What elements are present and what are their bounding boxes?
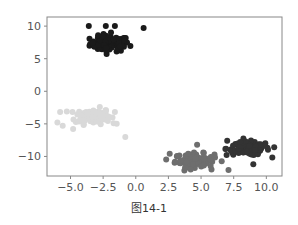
data-point <box>190 161 196 167</box>
data-point <box>188 166 194 172</box>
data-point <box>172 159 178 165</box>
data-point <box>54 120 60 126</box>
points-layer <box>54 23 277 173</box>
series-cluster-2 <box>54 104 128 140</box>
data-point <box>98 121 104 127</box>
data-point <box>97 104 103 110</box>
data-point <box>219 158 225 164</box>
x-tick-label: −2.5 <box>90 181 117 194</box>
data-point <box>70 126 76 132</box>
data-point <box>81 122 87 128</box>
x-tick-label: 10.0 <box>254 181 279 194</box>
data-point <box>163 157 169 163</box>
data-point <box>201 150 207 156</box>
series-cluster-1 <box>86 23 147 57</box>
figure-caption: 图14-1 <box>131 202 167 215</box>
series-cluster-3 <box>163 142 231 174</box>
data-point <box>103 107 109 113</box>
data-point <box>64 109 70 115</box>
data-point <box>226 167 232 173</box>
data-point <box>105 118 111 124</box>
data-point <box>262 143 268 149</box>
x-tick-label: −5.0 <box>57 181 84 194</box>
data-point <box>111 120 117 126</box>
data-point <box>244 149 250 155</box>
data-point <box>177 158 183 164</box>
data-point <box>167 151 173 157</box>
x-tick-label: 5.0 <box>192 181 210 194</box>
data-point <box>71 116 77 122</box>
data-point <box>103 45 109 51</box>
data-point <box>192 156 198 162</box>
y-axis: 1050−5−10 <box>18 20 47 163</box>
data-point <box>194 142 200 148</box>
x-axis: −5.0−2.50.02.55.07.510.0 <box>57 176 278 194</box>
data-point <box>121 37 127 43</box>
data-point <box>90 114 96 120</box>
data-point <box>269 154 275 160</box>
data-point <box>127 43 133 49</box>
data-point <box>201 156 207 162</box>
x-tick-label: 2.5 <box>160 181 178 194</box>
data-point <box>86 23 92 29</box>
data-point <box>237 139 243 145</box>
data-point <box>95 32 101 38</box>
data-point <box>103 23 109 29</box>
y-tick-label: 5 <box>34 53 41 66</box>
data-point <box>252 147 258 153</box>
data-point <box>84 111 90 117</box>
x-tick-label: 7.5 <box>225 181 243 194</box>
data-point <box>224 138 230 144</box>
data-point <box>112 23 118 29</box>
data-point <box>78 112 84 118</box>
data-point <box>184 159 190 165</box>
data-point <box>182 165 188 171</box>
data-point <box>201 162 207 168</box>
data-point <box>250 161 256 167</box>
data-point <box>60 123 66 129</box>
data-point <box>224 152 230 158</box>
data-point <box>111 37 117 43</box>
scatter-chart: −5.0−2.50.02.55.07.510.0 1050−5−10 图14-1 <box>0 0 298 225</box>
data-point <box>209 167 215 173</box>
data-point <box>208 157 214 163</box>
y-tick-label: 10 <box>27 20 41 33</box>
data-point <box>122 134 128 140</box>
data-point <box>222 146 228 152</box>
data-point <box>246 143 252 149</box>
data-point <box>57 109 63 115</box>
series-cluster-4 <box>222 136 277 168</box>
y-tick-label: −5 <box>25 118 41 131</box>
data-point <box>117 43 123 49</box>
data-point <box>141 25 147 31</box>
y-tick-label: −10 <box>18 150 41 163</box>
x-tick-label: 0.0 <box>127 181 145 194</box>
data-point <box>112 109 118 115</box>
data-point <box>271 144 277 150</box>
y-tick-label: 0 <box>34 85 41 98</box>
data-point <box>90 40 96 46</box>
data-point <box>108 30 114 36</box>
